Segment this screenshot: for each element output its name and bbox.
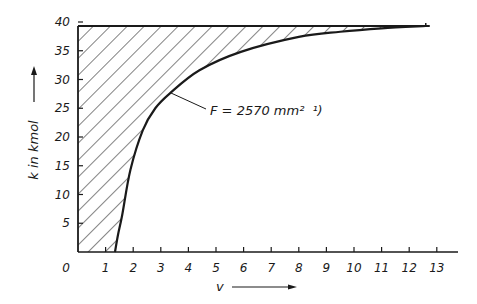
chart: 012345678910111213510152025303540 F = 25… <box>0 0 477 304</box>
svg-text:2: 2 <box>129 261 137 275</box>
svg-text:6: 6 <box>240 261 248 275</box>
svg-text:9: 9 <box>323 261 331 275</box>
svg-text:0: 0 <box>62 261 70 275</box>
svg-text:8: 8 <box>295 261 303 275</box>
svg-text:10: 10 <box>55 188 71 202</box>
y-axis-arrow-icon <box>31 66 37 102</box>
x-axis-title: v <box>216 279 224 294</box>
svg-text:30: 30 <box>55 73 71 87</box>
svg-text:1: 1 <box>102 261 110 275</box>
svg-text:7: 7 <box>267 261 275 275</box>
svg-text:5: 5 <box>62 216 70 230</box>
svg-text:15: 15 <box>55 159 70 173</box>
svg-text:4: 4 <box>185 261 193 275</box>
svg-text:20: 20 <box>55 130 71 144</box>
annotation-label: F = 2570 mm²¹) <box>210 103 323 118</box>
annotation-leader-line <box>171 93 206 109</box>
svg-text:35: 35 <box>55 44 70 58</box>
svg-text:3: 3 <box>157 261 165 275</box>
svg-text:40: 40 <box>55 15 71 29</box>
svg-text:11: 11 <box>374 261 389 275</box>
svg-text:5: 5 <box>212 261 220 275</box>
svg-text:12: 12 <box>402 261 417 275</box>
svg-text:25: 25 <box>55 101 70 115</box>
hatched-area <box>78 26 426 252</box>
svg-text:13: 13 <box>429 261 444 275</box>
x-axis-arrow-icon <box>232 285 297 290</box>
y-axis-title: k in kmol <box>26 120 41 180</box>
svg-text:10: 10 <box>346 261 362 275</box>
